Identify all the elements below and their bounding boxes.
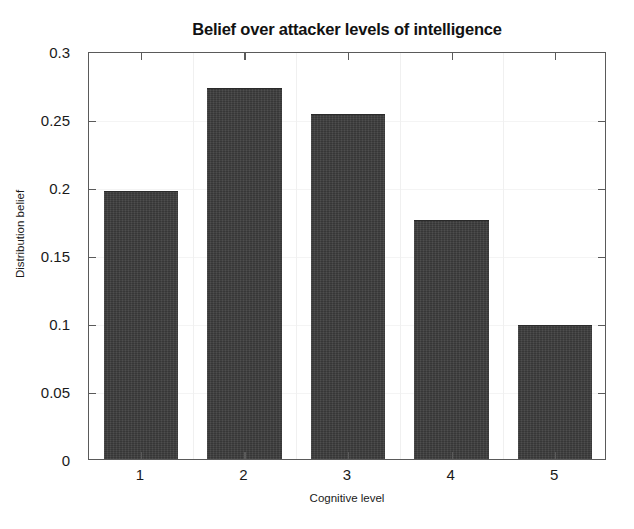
bar[interactable] xyxy=(311,114,386,459)
x-tick-mark xyxy=(244,452,245,459)
y-tick-mark xyxy=(598,257,605,258)
y-tick-label: 0.2 xyxy=(0,180,70,197)
bar-slot xyxy=(296,53,400,459)
y-tick-mark xyxy=(598,393,605,394)
y-tick-mark xyxy=(598,189,605,190)
bar[interactable] xyxy=(104,191,179,459)
bar[interactable] xyxy=(414,220,489,459)
x-tick-mark xyxy=(141,452,142,459)
y-tick-label: 0 xyxy=(0,452,70,469)
x-tick-mark xyxy=(141,53,142,60)
y-tick-label: 0.3 xyxy=(0,44,70,61)
x-tick-mark xyxy=(555,452,556,459)
x-axis-label: Cognitive level xyxy=(88,492,606,504)
y-tick-label: 0.15 xyxy=(0,248,70,265)
bar-slot xyxy=(89,53,193,459)
x-tick-label: 3 xyxy=(295,466,399,483)
bar[interactable] xyxy=(518,325,593,459)
y-tick-mark xyxy=(89,257,96,258)
x-tick-mark xyxy=(452,452,453,459)
y-tick-mark xyxy=(598,121,605,122)
x-tick-mark xyxy=(348,452,349,459)
bar-slot xyxy=(503,53,606,459)
x-tick-label: 4 xyxy=(399,466,503,483)
y-tick-label: 0.25 xyxy=(0,112,70,129)
bar-slot xyxy=(400,53,504,459)
y-tick-mark xyxy=(89,121,96,122)
x-tick-mark xyxy=(244,53,245,60)
bar[interactable] xyxy=(207,88,282,459)
bar-chart-figure: Belief over attacker levels of intellige… xyxy=(0,0,634,529)
bar-slot xyxy=(193,53,297,459)
plot-area xyxy=(88,52,606,460)
y-tick-mark xyxy=(89,393,96,394)
x-tick-mark xyxy=(555,53,556,60)
x-tick-mark xyxy=(452,53,453,60)
x-tick-label: 2 xyxy=(192,466,296,483)
y-axis-tick-labels: 00.050.10.150.20.250.3 xyxy=(0,52,80,460)
x-tick-label: 1 xyxy=(88,466,192,483)
y-tick-label: 0.1 xyxy=(0,316,70,333)
y-tick-mark xyxy=(89,189,96,190)
y-axis-label: Distribution belief xyxy=(14,154,26,314)
chart-title: Belief over attacker levels of intellige… xyxy=(88,20,606,39)
y-tick-label: 0.05 xyxy=(0,384,70,401)
y-tick-mark xyxy=(598,325,605,326)
bar-series xyxy=(89,53,605,459)
y-tick-mark xyxy=(89,325,96,326)
x-tick-mark xyxy=(348,53,349,60)
x-tick-label: 5 xyxy=(502,466,606,483)
x-axis-tick-labels: 12345 xyxy=(88,466,606,490)
